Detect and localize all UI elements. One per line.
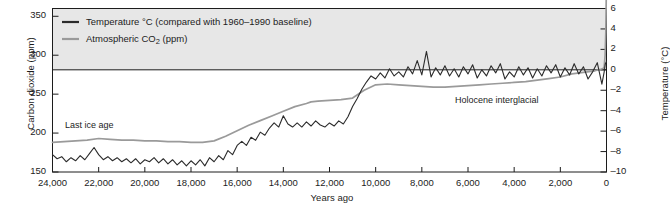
y2-tick-label: 6 bbox=[611, 2, 633, 13]
y2-tick-label: 4 bbox=[611, 22, 633, 33]
y2-tick-label: –2 bbox=[611, 83, 633, 94]
y2-tick-label: 0 bbox=[611, 63, 633, 74]
x-axis-title: Years ago bbox=[0, 192, 664, 203]
y-tick-label: 350 bbox=[0, 9, 46, 20]
legend-label-co2-prefix: Atmospheric CO bbox=[86, 33, 156, 44]
y2-tick-label: 2 bbox=[611, 42, 633, 53]
y2-tick-label: –10 bbox=[611, 165, 633, 176]
legend-label-temperature: Temperature °C (compared with 1960–1990 … bbox=[86, 16, 312, 27]
y2-tick-label: –8 bbox=[611, 145, 633, 156]
y-tick-label: 300 bbox=[0, 48, 46, 59]
annotation-holocene-interglacial: Holocene interglacial bbox=[455, 95, 539, 105]
x-tick-label: 0 bbox=[567, 177, 647, 188]
y-tick-label: 150 bbox=[0, 165, 46, 176]
legend-label-co2-suffix: (ppm) bbox=[160, 33, 187, 44]
legend-label-co2-subscript: 2 bbox=[156, 37, 160, 46]
y2-tick-label: –4 bbox=[611, 104, 633, 115]
y-tick-label: 250 bbox=[0, 87, 46, 98]
annotation-last-ice-age: Last ice age bbox=[65, 120, 114, 130]
y2-tick-label: –6 bbox=[611, 124, 633, 135]
y-tick-label: 200 bbox=[0, 126, 46, 137]
legend-label-co2: Atmospheric CO2 (ppm) bbox=[86, 33, 187, 44]
y-axis-right-title: Temperature (°C) bbox=[659, 24, 670, 144]
